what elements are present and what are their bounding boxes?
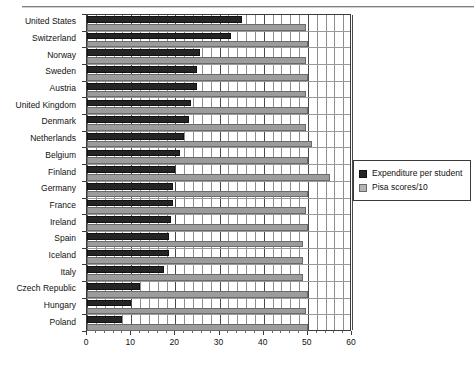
bar-row	[87, 282, 350, 299]
legend-label-pisa: Pisa scores/10	[372, 183, 428, 192]
bar-pisa	[87, 324, 308, 331]
bar-expenditure	[87, 200, 173, 207]
bar-row	[87, 165, 350, 182]
plot-area	[86, 14, 351, 331]
legend-swatch-icon-pisa	[359, 184, 367, 192]
bar-row	[87, 15, 350, 32]
bar-pisa	[87, 224, 308, 231]
bar-expenditure	[87, 233, 169, 240]
bar-pisa	[87, 274, 303, 281]
category-label: Ireland	[50, 218, 76, 227]
category-axis-labels: United StatesSwitzerlandNorwaySwedenAust…	[0, 14, 82, 331]
category-label: Spain	[54, 234, 76, 243]
x-tick-major	[263, 331, 264, 335]
bar-pisa	[87, 157, 308, 164]
x-tick-label: 10	[125, 337, 134, 348]
x-tick-minor	[183, 331, 184, 333]
bar-row	[87, 315, 350, 332]
x-tick-minor	[342, 331, 343, 333]
x-tick-label: 0	[84, 337, 89, 348]
legend-item-pisa: Pisa scores/10	[359, 181, 466, 194]
x-tick-minor	[272, 331, 273, 333]
category-label: Switzerland	[32, 34, 76, 43]
bar-pisa	[87, 24, 306, 31]
bar-pisa	[87, 124, 306, 131]
bar-pisa	[87, 107, 308, 114]
x-axis-ticks	[86, 331, 351, 336]
bar-expenditure	[87, 83, 197, 90]
category-label: Germany	[41, 184, 76, 193]
bar-row	[87, 249, 350, 266]
x-tick-minor	[104, 331, 105, 333]
legend-item-expenditure: Expenditure per student	[359, 167, 466, 180]
x-tick-label: 50	[302, 337, 311, 348]
bar-expenditure	[87, 16, 242, 23]
chart-page: United StatesSwitzerlandNorwaySwedenAust…	[0, 0, 475, 367]
bar-row	[87, 132, 350, 149]
x-tick-minor	[280, 331, 281, 333]
bar-row	[87, 98, 350, 115]
bar-expenditure	[87, 116, 189, 123]
x-tick-major	[219, 331, 220, 335]
category-label: Denmark	[42, 117, 76, 126]
bar-row	[87, 115, 350, 132]
bar-pisa	[87, 257, 303, 264]
grouped-bar-chart: United StatesSwitzerlandNorwaySwedenAust…	[0, 12, 475, 362]
bar-pisa	[87, 174, 330, 181]
x-tick-minor	[227, 331, 228, 333]
x-tick-minor	[148, 331, 149, 333]
category-label: Czech Republic	[16, 284, 76, 293]
bar-expenditure	[87, 216, 171, 223]
bar-expenditure	[87, 250, 169, 257]
bar-pisa	[87, 141, 312, 148]
x-tick-label: 40	[258, 337, 267, 348]
category-label: Austria	[50, 84, 76, 93]
bar-rows	[87, 15, 350, 330]
category-label: Finland	[48, 168, 76, 177]
bar-pisa	[87, 74, 308, 81]
bar-row	[87, 299, 350, 316]
x-tick-minor	[139, 331, 140, 333]
page-divider-rule-secondary	[22, 7, 474, 8]
x-tick-label: 20	[170, 337, 179, 348]
x-tick-minor	[298, 331, 299, 333]
bar-pisa	[87, 57, 306, 64]
bar-row	[87, 65, 350, 82]
category-label: Iceland	[49, 251, 76, 260]
bar-pisa	[87, 207, 306, 214]
bar-pisa	[87, 241, 303, 248]
bar-row	[87, 48, 350, 65]
bar-row	[87, 265, 350, 282]
bar-expenditure	[87, 283, 140, 290]
bar-expenditure	[87, 66, 197, 73]
bar-pisa	[87, 191, 308, 198]
x-tick-minor	[333, 331, 334, 333]
bar-pisa	[87, 291, 308, 298]
x-tick-minor	[121, 331, 122, 333]
bar-expenditure	[87, 183, 173, 190]
x-tick-minor	[113, 331, 114, 333]
bar-expenditure	[87, 266, 164, 273]
bar-row	[87, 215, 350, 232]
bar-row	[87, 199, 350, 216]
category-label: Italy	[60, 268, 76, 277]
category-label: Belgium	[45, 151, 76, 160]
x-tick-minor	[289, 331, 290, 333]
bar-expenditure	[87, 300, 131, 307]
x-tick-major	[351, 331, 352, 335]
category-label: Netherlands	[30, 134, 76, 143]
x-tick-major	[174, 331, 175, 335]
chart-legend: Expenditure per student Pisa scores/10	[353, 160, 471, 201]
x-tick-label: 30	[214, 337, 223, 348]
x-tick-minor	[201, 331, 202, 333]
x-tick-minor	[316, 331, 317, 333]
x-tick-minor	[157, 331, 158, 333]
x-tick-minor	[210, 331, 211, 333]
x-tick-major	[130, 331, 131, 335]
x-axis-tick-labels: 0102030405060	[0, 337, 475, 351]
legend-label-expenditure: Expenditure per student	[372, 169, 462, 178]
x-tick-label: 60	[346, 337, 355, 348]
x-tick-major	[86, 331, 87, 335]
x-tick-minor	[95, 331, 96, 333]
x-tick-minor	[245, 331, 246, 333]
